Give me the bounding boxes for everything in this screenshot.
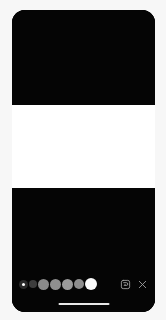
shade-swatch-3[interactable]: [38, 279, 49, 290]
bottom-toolbar: [12, 274, 155, 294]
preview-band-top: [12, 10, 155, 105]
toolbar-actions: [120, 279, 148, 290]
shade-swatch-6[interactable]: [74, 279, 84, 289]
preview-band-white: [12, 105, 155, 188]
shade-swatch-1[interactable]: [19, 280, 28, 289]
phone-frame: [12, 10, 155, 312]
shade-swatch-5[interactable]: [62, 279, 73, 290]
home-indicator[interactable]: [58, 303, 109, 305]
save-icon[interactable]: [120, 279, 131, 290]
close-icon[interactable]: [137, 279, 148, 290]
swatch-selected-indicator: [22, 283, 25, 286]
screenshot-root: [0, 0, 166, 320]
shade-swatch-2[interactable]: [29, 280, 37, 288]
shade-swatch-list: [19, 278, 97, 290]
shade-swatch-4[interactable]: [50, 279, 61, 290]
photo-preview-canvas[interactable]: [12, 10, 155, 312]
shade-swatch-7[interactable]: [85, 278, 97, 290]
